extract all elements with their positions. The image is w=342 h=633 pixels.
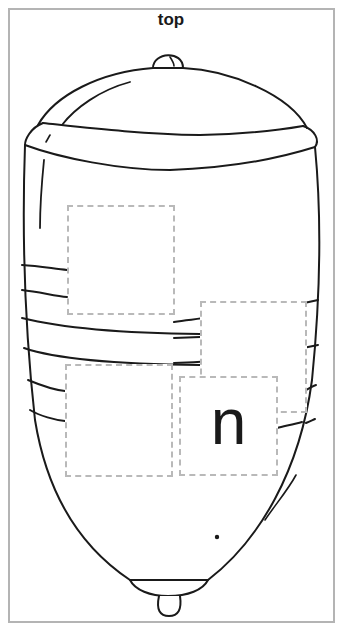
dome-outer-right — [183, 68, 307, 128]
collar-top — [43, 123, 303, 135]
bottom-tip — [158, 596, 180, 616]
letter-box-4-text: n — [181, 390, 276, 454]
letter-box-4[interactable]: n — [179, 376, 278, 476]
letter-box-3[interactable] — [65, 364, 173, 477]
band-1 — [22, 265, 67, 270]
band-3 — [22, 318, 200, 334]
collar-left-cap — [25, 123, 43, 145]
top-knob — [153, 55, 183, 68]
base-ring — [130, 580, 208, 596]
letter-box-1[interactable] — [67, 205, 175, 315]
collar-right-cap — [303, 126, 317, 147]
band-2 — [22, 290, 67, 297]
band-5 — [28, 380, 65, 391]
dome-inner-line — [62, 82, 130, 125]
collar-bottom — [25, 145, 315, 170]
